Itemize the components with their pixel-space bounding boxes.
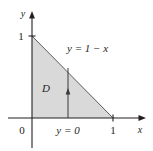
lower-boundary-equation-label: y = 0 xyxy=(55,124,80,136)
origin-tick-label: 0 xyxy=(19,124,25,136)
x-tick-label-1: 1 xyxy=(110,124,116,136)
x-axis-label: x xyxy=(137,124,143,135)
region-label-D: D xyxy=(41,82,50,94)
y-axis-label: y xyxy=(20,8,26,19)
x-axis-arrow-icon xyxy=(139,115,147,121)
y-axis-arrow-icon xyxy=(29,11,35,19)
upper-boundary-equation-label: y = 1 − x xyxy=(66,42,108,54)
math-figure: y x 0 1 1 y = 1 − x D y = 0 xyxy=(0,0,153,151)
figure-canvas: y x 0 1 1 y = 1 − x D y = 0 xyxy=(0,0,153,151)
y-tick-label-1: 1 xyxy=(18,30,24,42)
